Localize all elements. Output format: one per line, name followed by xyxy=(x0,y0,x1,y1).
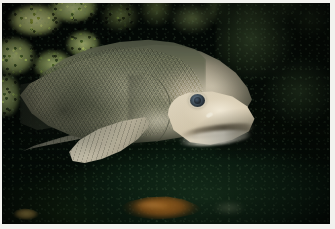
orange-fish-highlight xyxy=(130,199,174,211)
photo-frame: deep-bodied reef fish (grouper / tilefis… xyxy=(0,0,335,229)
main-fish xyxy=(20,33,264,158)
background-blur-highlight xyxy=(208,199,250,217)
fish-pupil xyxy=(194,97,201,104)
underwater-photograph xyxy=(2,3,330,224)
